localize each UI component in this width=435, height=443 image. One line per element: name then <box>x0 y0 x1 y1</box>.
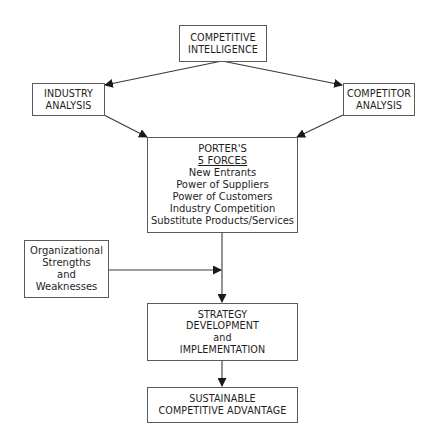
node-text: and <box>57 269 76 281</box>
node-text: COMPETITIVE ADVANTAGE <box>158 405 286 417</box>
force-item: New Entrants <box>189 167 256 179</box>
force-item: Power of Suppliers <box>176 179 269 191</box>
strategy-box: STRATEGY DEVELOPMENT and IMPLEMENTATION <box>147 303 298 361</box>
competitor-analysis-box: COMPETITOR ANALYSIS <box>343 83 415 116</box>
porter-subtitle: 5 FORCES <box>198 155 247 167</box>
org-strengths-weaknesses-box: Organizational Strengths and Weaknesses <box>24 240 109 298</box>
sustainable-advantage-box: SUSTAINABLE COMPETITIVE ADVANTAGE <box>147 387 298 423</box>
flowchart: COMPETITIVE INTELLIGENCE INDUSTRY ANALYS… <box>0 0 435 443</box>
porters-five-forces-box: PORTER'S 5 FORCES New Entrants Power of … <box>147 137 298 233</box>
arrow-ci-to-industry <box>105 61 222 85</box>
force-item: Industry Competition <box>170 203 276 215</box>
arrow-industry-to-porter <box>104 115 147 137</box>
node-text: COMPETITIVE <box>190 32 255 44</box>
node-text: and <box>213 332 231 344</box>
node-text: SUSTAINABLE <box>189 393 256 405</box>
node-text: Strengths <box>42 257 90 269</box>
porter-title: PORTER'S <box>198 143 247 155</box>
arrow-competitor-to-porter <box>297 115 343 137</box>
node-text: ANALYSIS <box>356 100 402 112</box>
node-text: INTELLIGENCE <box>188 44 258 56</box>
industry-analysis-box: INDUSTRY ANALYSIS <box>32 83 105 116</box>
node-text: Weaknesses <box>36 281 98 293</box>
node-text: Organizational <box>30 245 103 257</box>
node-text: ANALYSIS <box>45 100 91 112</box>
force-item: Substitute Products/Services <box>151 215 294 227</box>
node-text: COMPETITOR <box>347 88 411 100</box>
competitive-intelligence-box: COMPETITIVE INTELLIGENCE <box>179 25 267 62</box>
node-text: IMPLEMENTATION <box>180 344 266 356</box>
node-text: DEVELOPMENT <box>186 320 259 332</box>
node-text: STRATEGY <box>198 309 248 321</box>
arrow-ci-to-competitor <box>222 61 342 85</box>
force-item: Power of Customers <box>172 191 272 203</box>
node-text: INDUSTRY <box>44 88 93 100</box>
